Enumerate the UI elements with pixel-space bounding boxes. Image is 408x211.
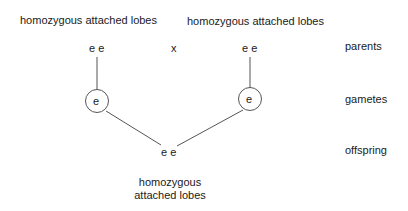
right-parent-phenotype: homozygous attached lobes [187, 15, 324, 28]
row-label-gametes: gametes [345, 93, 387, 106]
offspring-phenotype-line2: attached lobes [120, 189, 220, 202]
cross-symbol: x [171, 42, 177, 55]
left-gamete-allele: e [93, 95, 99, 108]
right-offspring-line [177, 110, 243, 146]
left-parent-genotype: e e [89, 42, 104, 55]
row-label-parents: parents [345, 40, 382, 53]
offspring-phenotype-line1: homozygous [120, 176, 220, 189]
row-label-offspring: offspring [345, 144, 387, 157]
right-parent-genotype: e e [242, 42, 257, 55]
left-offspring-line [106, 111, 161, 145]
left-parent-phenotype: homozygous attached lobes [20, 14, 157, 27]
offspring-genotype: e e [161, 146, 176, 159]
right-gamete-allele: e [246, 93, 252, 106]
